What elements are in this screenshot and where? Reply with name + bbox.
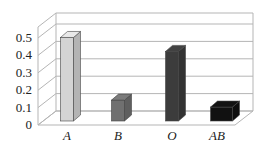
bar-o	[166, 45, 186, 121]
y-tick-label: 0.5	[16, 30, 32, 45]
bar-a	[61, 31, 81, 121]
x-tick-label: B	[114, 128, 122, 143]
x-axis-labels: ABOAB	[62, 128, 225, 143]
y-tick-label: 0.1	[16, 100, 32, 115]
bar-ab	[211, 101, 240, 121]
x-tick-label: AB	[208, 128, 225, 143]
x-tick-label: A	[62, 128, 71, 143]
y-axis-ticks: 00.10.20.30.40.5	[16, 30, 33, 132]
y-tick-label: 0.4	[16, 47, 33, 62]
y-tick-label: 0.2	[16, 82, 32, 97]
x-tick-label: O	[167, 128, 177, 143]
y-tick-label: 0	[26, 117, 33, 132]
bar-b	[112, 94, 132, 121]
y-tick-label: 0.3	[16, 65, 32, 80]
bar-chart: 00.10.20.30.40.5 ABOAB	[0, 0, 263, 148]
